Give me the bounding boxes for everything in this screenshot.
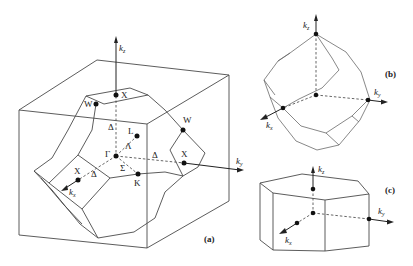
label-kz: kz [119,43,126,54]
point-right-c [367,217,372,222]
panel-label-a: (a) [204,234,215,244]
label-K: K [134,178,141,188]
label-Gamma: Γ [105,149,110,159]
ky-arrowhead-icon [387,220,394,225]
point-front-b [281,106,286,111]
panel-label-b: (b) [385,69,396,79]
label-Sigma: Σ [120,163,125,173]
brillouin-zone-figure: kz X W Δ L Λ Γ Δ W X X Δ Σ K ky kx (a) [0,0,413,266]
labels-a: kz X W Δ L Λ Γ Δ W X X Δ Σ K ky kx (a) [69,43,243,244]
point-right-b [366,98,371,103]
symmetry-lines [78,96,184,180]
point-center-c [311,211,316,216]
label-kz: kz [303,20,310,31]
kz-arrowhead-icon [311,166,315,173]
labels-b: kz ky kx (b) [266,20,396,131]
label-kz: kz [318,164,325,175]
point-center-b [314,93,319,98]
point-Gamma [114,154,119,159]
panel-label-c: (c) [385,185,395,195]
cube-outline [19,60,229,248]
ky-arrowhead-icon [237,168,244,173]
axes-b [260,14,388,120]
label-X-top: X [121,90,128,100]
label-Delta-right: Δ [152,150,158,160]
panel-c: kz ky kx (c) [260,164,395,251]
point-top-c [311,187,316,192]
panel-a: kz X W Δ L Λ Γ Δ W X X Δ Σ K ky kx (a) [19,36,244,248]
kz-arrowhead-icon [114,36,118,43]
label-X-front: X [74,166,81,176]
point-X-right [182,161,187,166]
label-X-right: X [181,149,188,159]
axes-c [279,166,394,234]
ky-arrowhead-icon [381,100,388,105]
label-ky: ky [374,87,381,98]
point-L [135,134,140,139]
label-kx: kx [266,120,273,131]
label-Delta-front: Δ [91,169,97,179]
axes-a [61,36,244,191]
label-Lambda: Λ [125,141,132,151]
label-L: L [128,126,134,136]
point-X-front [76,178,81,183]
rhombic-dodecahedron [264,34,370,150]
label-Delta-vert: Δ [108,122,114,132]
labels-c: kz ky kx (c) [285,164,395,246]
label-W-top: W [84,99,93,109]
point-front-c [295,221,300,226]
point-W-right [181,128,186,133]
point-K [136,172,141,177]
point-W-top [94,102,99,107]
label-W-right: W [183,115,192,125]
kx-arrowhead-icon [279,228,287,234]
label-ky: ky [378,206,385,217]
panel-b: kz ky kx (b) [260,14,396,150]
kx-arrowhead-icon [61,185,68,191]
label-kx: kx [285,235,292,246]
label-kx: kx [69,187,76,198]
label-ky: ky [236,156,243,167]
kz-arrowhead-icon [314,14,318,21]
point-top-b [314,32,319,37]
point-X-top [114,93,119,98]
